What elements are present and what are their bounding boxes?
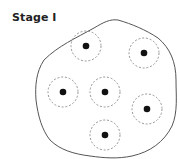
nucleus-unit bbox=[48, 77, 78, 107]
diagram-canvas bbox=[0, 0, 180, 159]
nucleus-unit bbox=[90, 120, 120, 150]
nucleus-dot bbox=[102, 132, 109, 139]
nucleus-dot bbox=[60, 89, 67, 96]
nucleus-dot bbox=[144, 106, 151, 113]
nucleus-unit bbox=[129, 38, 159, 68]
nucleus-dot bbox=[83, 43, 90, 50]
nucleus-unit bbox=[90, 77, 120, 107]
nucleus-unit bbox=[132, 94, 162, 124]
nucleus-dot bbox=[141, 50, 148, 57]
nucleus-dot bbox=[102, 89, 109, 96]
nucleus-unit bbox=[71, 31, 101, 61]
